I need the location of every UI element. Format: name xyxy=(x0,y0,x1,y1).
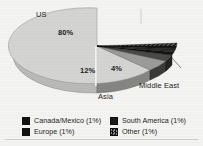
slice-label-us: US xyxy=(36,10,47,19)
pie-chart-figure: US 80% 12% 4% Asia Middle East Canada/Me… xyxy=(0,0,203,146)
footer-separator-rule xyxy=(5,139,198,140)
legend-item-canada-mexico[interactable]: Canada/Mexico (1%) xyxy=(22,115,110,126)
legend-label-europe: Europe (1%) xyxy=(34,127,74,136)
scan-artifact xyxy=(140,9,142,24)
slice-label-middle-east: Middle East xyxy=(139,81,179,90)
legend-swatch-other-icon xyxy=(110,128,118,136)
legend-item-other[interactable]: Other (1%) xyxy=(110,126,198,137)
legend-swatch-south-america-icon xyxy=(110,117,118,125)
legend-label-canada-mexico: Canada/Mexico (1%) xyxy=(34,116,101,125)
middle-east-leader-line xyxy=(172,58,181,68)
legend-label-south-america: South America (1%) xyxy=(122,116,186,125)
legend-item-europe[interactable]: Europe (1%) xyxy=(22,126,110,137)
slice-label-asia: Asia xyxy=(98,92,113,101)
legend-label-other: Other (1%) xyxy=(122,127,157,136)
legend-swatch-canada-mexico-icon xyxy=(22,117,30,125)
legend-item-south-america[interactable]: South America (1%) xyxy=(110,115,198,126)
pie-chart-plot-area: US 80% 12% 4% Asia Middle East xyxy=(0,0,203,112)
chart-legend: Canada/Mexico (1%) South America (1%) Eu… xyxy=(22,115,197,137)
legend-swatch-europe-icon xyxy=(22,128,30,136)
slice-value-asia: 12% xyxy=(80,66,95,75)
slice-value-us: 80% xyxy=(58,28,73,37)
pie-slice-other[interactable] xyxy=(97,43,177,46)
slice-value-middle-east: 4% xyxy=(111,64,122,73)
